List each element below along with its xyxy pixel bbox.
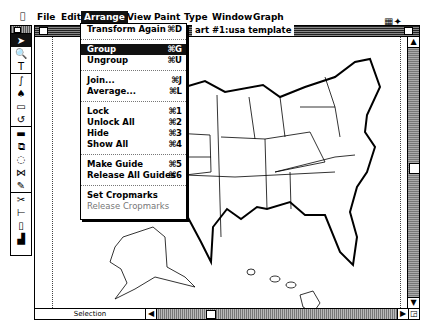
menu-item-shortcut: ⌘4 — [168, 139, 182, 150]
close-box[interactable] — [39, 27, 48, 35]
menu-item-shortcut: ⌘2 — [168, 117, 182, 128]
menu-item-lock[interactable]: Lock⌘1 — [81, 106, 186, 117]
zoom-icon[interactable]: 🔍 — [11, 47, 31, 60]
apple-icon[interactable]:  — [20, 11, 25, 21]
menu-item-shortcut: ⌘J — [171, 75, 182, 86]
menu-item-label: Make Guide — [87, 159, 143, 169]
menu-view[interactable]: View — [124, 11, 154, 23]
rectangle-icon[interactable]: ▭ — [11, 100, 31, 113]
menu-arrange[interactable]: Arrange — [81, 11, 128, 23]
menu-item-label: Release All Guides — [87, 170, 176, 180]
menu-item-shortcut: ⌘5 — [168, 159, 182, 170]
pen-icon[interactable]: ♠ — [11, 87, 31, 100]
menu-item-group[interactable]: Group⌘G — [81, 44, 186, 55]
freehand-icon[interactable]: ∫ — [11, 73, 31, 87]
alaska — [110, 227, 195, 299]
menu-item-shortcut: ⌘L — [169, 86, 182, 97]
arrow-icon[interactable]: ➤ — [11, 34, 31, 47]
status-label[interactable]: Selection — [35, 309, 146, 319]
menu-item-label: Average... — [87, 86, 136, 96]
menu-graph[interactable]: Graph — [250, 11, 287, 23]
paint-icon[interactable]: ✎ — [11, 179, 31, 192]
vertical-scrollbar[interactable]: ▲ ▼ — [407, 37, 419, 308]
reflect-icon[interactable]: ⧉ — [11, 140, 31, 153]
menu-item-unlock-all[interactable]: Unlock All⌘2 — [81, 117, 186, 128]
shear-icon[interactable]: ⋈ — [11, 166, 31, 179]
vertical-scroll-thumb[interactable] — [409, 163, 420, 174]
scissors-icon[interactable]: ✂ — [11, 192, 31, 206]
zoom-box[interactable] — [404, 27, 413, 35]
text-icon[interactable]: T — [11, 60, 31, 73]
horizontal-scrollbar[interactable] — [146, 309, 408, 319]
menu-item-label: Ungroup — [87, 55, 128, 65]
menu-item-shortcut: ⌘1 — [168, 106, 182, 117]
menu-item-label: Set Cropmarks — [87, 190, 158, 200]
menu-item-hide[interactable]: Hide⌘3 — [81, 128, 186, 139]
menu-item-release-cropmarks: Release Cropmarks — [81, 201, 186, 212]
menu-item-release-all-guides[interactable]: Release All Guides⌘6 — [81, 170, 186, 181]
arrange-menu: Transform Again⌘DGroup⌘GUngroup⌘UJoin...… — [80, 23, 187, 220]
palette-title-bar[interactable] — [11, 26, 31, 34]
menu-item-label: Show All — [87, 139, 128, 149]
window-title: art #1:usa template — [192, 25, 294, 36]
menu-item-make-guide[interactable]: Make Guide⌘5 — [81, 159, 186, 170]
menu-item-shortcut: ⌘G — [167, 44, 182, 55]
menu-item-label: Transform Again — [87, 24, 166, 34]
scroll-down-arrow[interactable]: ▼ — [408, 297, 419, 308]
rotate-icon[interactable]: ↺ — [11, 113, 31, 126]
menu-separator — [81, 39, 186, 40]
menu-separator — [81, 101, 186, 102]
menu-item-transform-again[interactable]: Transform Again⌘D — [81, 24, 186, 35]
menu-item-shortcut: ⌘U — [167, 55, 182, 66]
menu-item-ungroup[interactable]: Ungroup⌘U — [81, 55, 186, 66]
graph-icon[interactable]: ▟ — [11, 232, 31, 245]
scroll-right-arrow[interactable]: ▶ — [397, 309, 408, 319]
menu-item-label: Join... — [87, 75, 115, 85]
tool-palette: ➤🔍T∫♠▭↺▬⧉◌⋈✎✂⊢▯▟ — [10, 25, 32, 256]
blend-icon[interactable]: ▬ — [11, 126, 31, 140]
menu-type[interactable]: Type — [181, 11, 210, 23]
scroll-left-arrow[interactable]: ◀ — [146, 309, 157, 319]
grow-box[interactable]: ◲ — [408, 309, 419, 319]
menu-item-shortcut: ⌘3 — [168, 128, 182, 139]
hawaii — [247, 269, 320, 308]
horizontal-scroll-area: Selection ◀ ▶ ◲ — [35, 308, 419, 319]
menu-bar:  File Edit Arrange View Paint Type Wind… — [0, 10, 427, 24]
menu-item-label: Hide — [87, 128, 109, 138]
palette-close-box[interactable] — [14, 27, 21, 33]
horizontal-scroll-thumb[interactable] — [206, 310, 216, 319]
measure-icon[interactable]: ⊢ — [11, 206, 31, 219]
menu-item-shortcut: ⌘D — [167, 24, 182, 35]
scroll-up-arrow[interactable]: ▲ — [408, 37, 419, 48]
menu-separator — [81, 154, 186, 155]
menu-item-show-all[interactable]: Show All⌘4 — [81, 139, 186, 150]
menu-separator — [81, 185, 186, 186]
menu-item-shortcut: ⌘6 — [168, 170, 182, 181]
menu-separator — [81, 70, 186, 71]
menu-item-average[interactable]: Average...⌘L — [81, 86, 186, 97]
menu-item-label: Group — [87, 44, 116, 54]
menu-item-join[interactable]: Join...⌘J — [81, 75, 186, 86]
menu-item-label: Unlock All — [87, 117, 135, 127]
menu-file[interactable]: File — [34, 11, 58, 23]
menu-item-set-cropmarks[interactable]: Set Cropmarks — [81, 190, 186, 201]
scale-icon[interactable]: ◌ — [11, 153, 31, 166]
menu-paint[interactable]: Paint — [151, 11, 183, 23]
page-icon[interactable]: ▯ — [11, 219, 31, 232]
menu-window[interactable]: Window — [209, 11, 255, 23]
menu-item-label: Lock — [87, 106, 109, 116]
menu-item-label: Release Cropmarks — [87, 201, 169, 211]
